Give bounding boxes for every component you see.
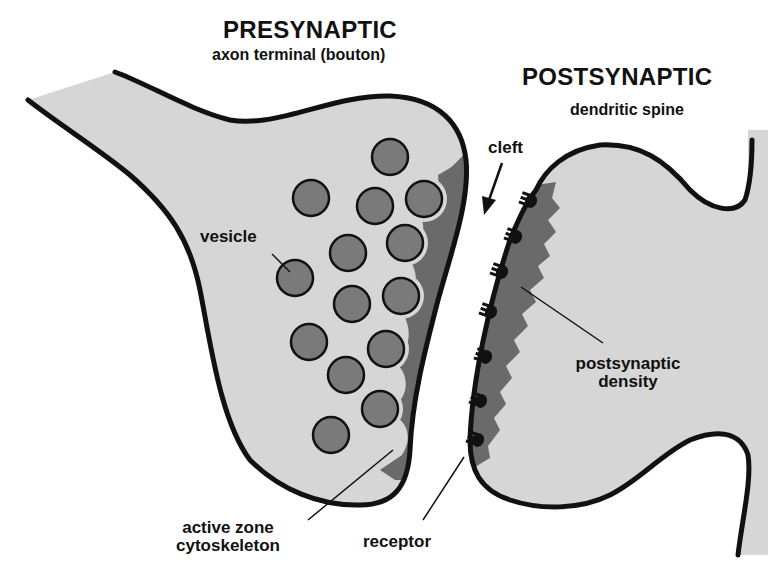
cleft-label: cleft <box>488 139 523 157</box>
vesicle-label: vesicle <box>200 228 257 246</box>
receptor-label: receptor <box>363 533 431 551</box>
vesicle <box>313 417 349 453</box>
presynaptic-subtitle: axon terminal (bouton) <box>212 46 385 63</box>
postsynaptic-density-label-line1: postsynaptic <box>563 355 693 373</box>
postsynaptic-density-label: postsynaptic density <box>563 355 693 392</box>
vesicle <box>334 286 370 322</box>
vesicle <box>357 188 393 224</box>
vesicle <box>406 181 442 217</box>
vesicle <box>293 180 329 216</box>
vesicle <box>291 324 327 360</box>
vesicle <box>362 391 398 427</box>
vesicle <box>368 331 404 367</box>
postsynaptic-subtitle: dendritic spine <box>570 101 684 118</box>
active-zone-label: active zone cytoskeleton <box>153 519 303 556</box>
vesicle <box>387 225 423 261</box>
postsynaptic-title: POSTSYNAPTIC <box>522 64 712 90</box>
vesicle <box>330 235 366 271</box>
vesicle <box>372 139 408 175</box>
active-zone-label-line1: active zone <box>153 519 303 537</box>
cleft-arrow <box>482 163 502 215</box>
postsynaptic-spine <box>460 130 768 555</box>
vesicle <box>383 278 419 314</box>
presynaptic-terminal <box>28 72 470 505</box>
receptor-leader-line <box>423 457 464 520</box>
vesicle <box>328 357 364 393</box>
active-zone-label-line2: cytoskeleton <box>153 537 303 555</box>
presynaptic-title: PRESYNAPTIC <box>223 17 397 43</box>
postsynaptic-density-label-line2: density <box>563 373 693 391</box>
